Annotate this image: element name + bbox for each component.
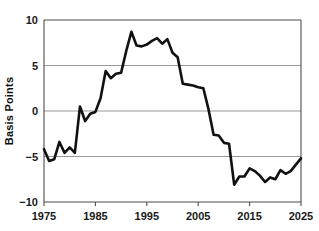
line-chart: 1050−5−10 197519851995200520152025 Basis… bbox=[0, 0, 319, 231]
chart-container: 1050−5−10 197519851995200520152025 Basis… bbox=[0, 0, 319, 231]
x-tick-label: 2005 bbox=[186, 210, 210, 222]
y-tick-label: 0 bbox=[32, 105, 38, 117]
x-tick-label: 1985 bbox=[83, 210, 107, 222]
y-tick-label: 10 bbox=[26, 14, 38, 26]
y-axis-tick-labels: 1050−5−10 bbox=[19, 14, 38, 208]
x-tick-label: 2025 bbox=[289, 210, 313, 222]
x-tick-label: 1975 bbox=[32, 210, 56, 222]
y-tick-label: −5 bbox=[25, 151, 38, 163]
y-tick-label: −10 bbox=[19, 196, 38, 208]
x-tick-label: 1995 bbox=[135, 210, 159, 222]
y-axis-title: Basis Points bbox=[3, 77, 15, 145]
x-tick-label: 2015 bbox=[237, 210, 261, 222]
x-axis-ticks bbox=[44, 202, 301, 206]
x-axis-tick-labels: 197519851995200520152025 bbox=[32, 210, 313, 222]
y-tick-label: 5 bbox=[32, 60, 38, 72]
